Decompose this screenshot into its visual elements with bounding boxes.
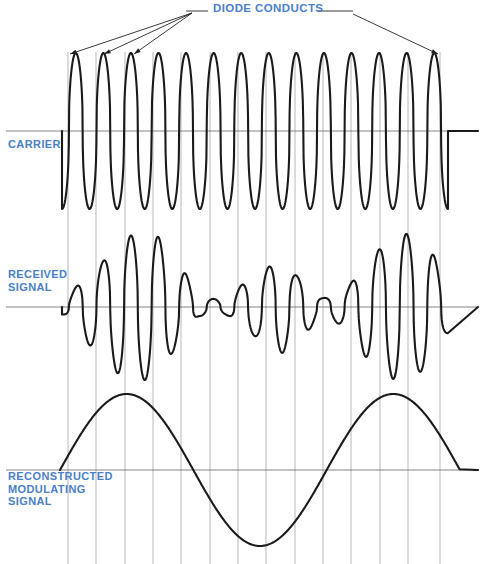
baseline-axes	[6, 131, 478, 470]
diode-conducts-arrow-1	[104, 13, 192, 54]
diode-conducts-arrow-1-head	[104, 49, 111, 54]
diode-conducts-arrow-0-head	[70, 50, 77, 54]
received-signal-label: RECEIVED SIGNAL	[8, 268, 67, 293]
diode-conducts-arrow-2	[134, 13, 192, 54]
carrier-label: CARRIER	[8, 138, 61, 151]
diode-conducts-arrow-2-head	[134, 48, 141, 54]
waveform-traces	[60, 53, 478, 546]
diode-conducts-label: DIODE CONDUCTS	[213, 2, 323, 15]
reconstructed-modulating-signal-label: RECONSTRUCTED MODULATING SIGNAL	[8, 470, 113, 508]
diode-conducts-arrow-0	[70, 13, 192, 54]
callout-leader-lines	[70, 11, 438, 54]
diode-conducts-arrow-3	[353, 14, 438, 54]
diode-conducts-arrow-3-head	[431, 49, 438, 54]
